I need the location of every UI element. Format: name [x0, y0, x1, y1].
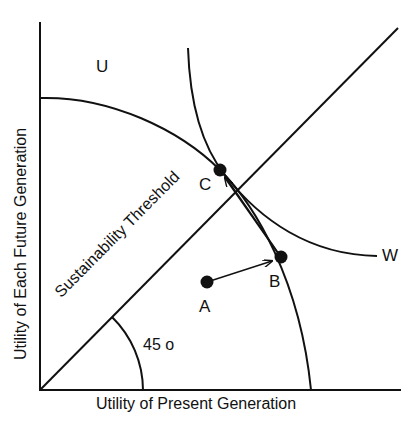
- point-b-label: B: [269, 273, 280, 290]
- point-c: [214, 164, 227, 177]
- angle-label: 45 o: [143, 337, 174, 353]
- utility-frontier-curve: [40, 98, 311, 390]
- angle-arc: [112, 317, 143, 390]
- diagram-canvas: [0, 0, 418, 431]
- arrow-a-to-b: [207, 261, 272, 282]
- point-a: [201, 276, 214, 289]
- frontier-label: U: [96, 58, 108, 75]
- path-b-to-c: [222, 172, 281, 257]
- y-axis-title: Utility of Each Future Generation: [13, 128, 29, 360]
- sustainability-diagram: U W A B C 45 o Sustainability Threshold …: [0, 0, 418, 431]
- welfare-label: W: [382, 247, 398, 264]
- point-b: [275, 251, 288, 264]
- sustainability-threshold-line: [40, 28, 398, 390]
- x-axis-title: Utility of Present Generation: [96, 396, 296, 412]
- point-c-label: C: [199, 176, 211, 193]
- point-a-label: A: [199, 298, 210, 315]
